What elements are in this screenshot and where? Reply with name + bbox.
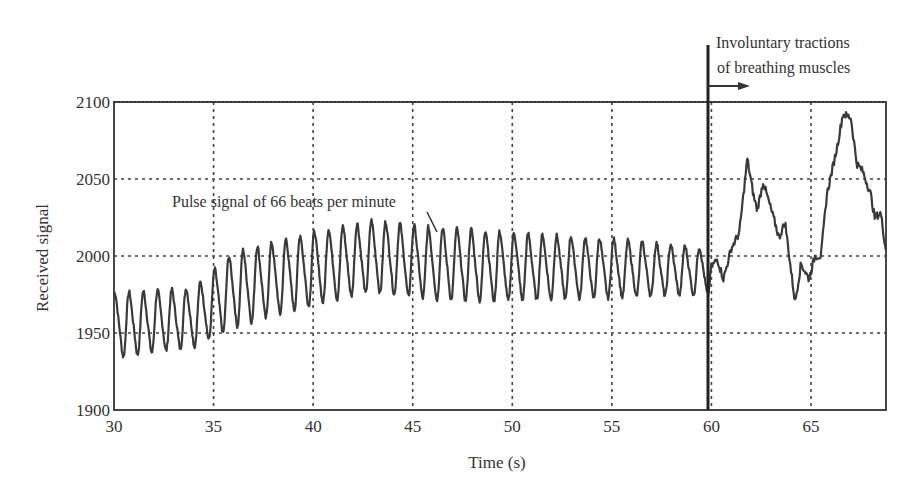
x-tick-label: 65 bbox=[803, 417, 820, 436]
pulse-annotation: Pulse signal of 66 beats per minute bbox=[172, 193, 396, 211]
y-tick-label: 2050 bbox=[76, 170, 110, 189]
signal-line bbox=[114, 112, 886, 357]
y-axis-label: Received signal bbox=[33, 204, 52, 312]
breathing-annotation-line1: Involuntary tractions bbox=[716, 34, 850, 52]
breathing-annotation-line2: of breathing muscles bbox=[717, 59, 850, 77]
y-tick-label: 2000 bbox=[76, 247, 110, 266]
x-tick-label: 45 bbox=[404, 417, 421, 436]
x-axis-label: Time (s) bbox=[468, 453, 525, 472]
x-tick-label: 40 bbox=[305, 417, 322, 436]
x-tick-label: 60 bbox=[703, 417, 720, 436]
x-tick-label: 50 bbox=[504, 417, 521, 436]
y-tick-label: 1950 bbox=[76, 324, 110, 343]
breathing-arrow-head-icon bbox=[738, 82, 750, 90]
y-tick-label: 1900 bbox=[76, 401, 110, 420]
x-tick-label: 35 bbox=[205, 417, 222, 436]
grid-lines bbox=[114, 102, 886, 410]
y-tick-label: 2100 bbox=[76, 93, 110, 112]
signal-chart: 303540455055606519001950200020502100 Tim… bbox=[0, 0, 922, 490]
x-tick-label: 55 bbox=[603, 417, 620, 436]
